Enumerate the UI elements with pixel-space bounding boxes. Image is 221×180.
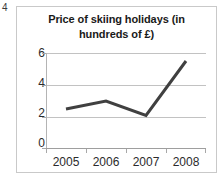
plot-area <box>46 53 206 149</box>
x-tick-mark-3 <box>166 149 167 153</box>
x-axis-tick-labels: 2005 2006 2007 2008 <box>46 155 206 171</box>
x-tick-mark-0 <box>46 149 47 153</box>
x-tick-label-2008: 2008 <box>166 155 206 169</box>
x-tick-label-2006: 2006 <box>86 155 126 169</box>
y-tick-label-4: 4 <box>29 77 45 89</box>
x-tick-mark-2 <box>126 149 127 153</box>
question-number-label: 4 <box>2 2 8 14</box>
data-series-line <box>46 53 206 149</box>
x-tick-label-2005: 2005 <box>46 155 86 169</box>
x-tick-label-2007: 2007 <box>126 155 166 169</box>
x-tick-mark-1 <box>86 149 87 153</box>
chart-frame: Price of skiing holidays (in hundreds of… <box>16 6 217 173</box>
x-tick-mark-4 <box>205 149 206 153</box>
plot-wrapper: 6 4 2 0 <box>17 7 216 172</box>
chart-screenshot: 4 Price of skiing holidays (in hundreds … <box>0 0 221 180</box>
